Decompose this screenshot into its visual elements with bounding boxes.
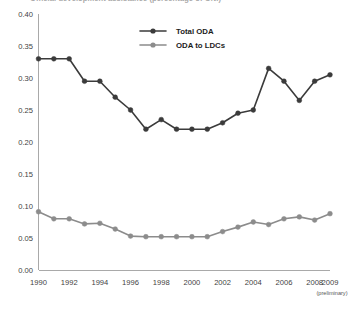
- x-axis-note-preliminary: (preliminary): [316, 290, 347, 296]
- series-data-point: [113, 95, 118, 100]
- legend-marker: [150, 28, 155, 33]
- series-data-point: [128, 108, 133, 113]
- series-data-point: [82, 79, 87, 84]
- series-data-point: [159, 117, 164, 122]
- x-axis-tick-label: 1994: [91, 278, 108, 287]
- legend-label: Total ODA: [176, 27, 214, 36]
- y-axis-tick-label: 0.20: [18, 138, 33, 147]
- y-axis-tick-label: 0.10: [18, 202, 33, 211]
- chart-container: Official development assistance (percent…: [0, 0, 349, 311]
- series-data-point: [312, 79, 317, 84]
- series-data-point: [297, 214, 302, 219]
- y-axis-tick-label: 0.25: [18, 106, 33, 115]
- y-axis-tick-label: 0.05: [18, 234, 33, 243]
- series-data-point: [174, 234, 179, 239]
- legend-marker: [150, 42, 155, 47]
- series-data-point: [205, 127, 210, 132]
- series-data-point: [82, 222, 87, 227]
- x-axis-tick-label: 2009: [322, 278, 339, 287]
- series-data-point: [128, 234, 133, 239]
- series-data-point: [97, 79, 102, 84]
- series-data-point: [236, 111, 241, 116]
- series-data-point: [282, 79, 287, 84]
- series-data-point: [328, 72, 333, 77]
- y-axis-tick-label: 0.15: [18, 170, 33, 179]
- series-data-point: [67, 56, 72, 61]
- series-data-point: [220, 120, 225, 125]
- series-data-point: [297, 98, 302, 103]
- x-axis-tick-label: 1992: [61, 278, 78, 287]
- data-series-layer: [36, 56, 332, 239]
- series-data-point: [97, 221, 102, 226]
- legend-label: ODA to LDCs: [176, 41, 226, 50]
- x-axis-tick-label: 1998: [153, 278, 170, 287]
- series-data-point: [328, 211, 333, 216]
- series-data-point: [266, 66, 271, 71]
- series-line: [39, 59, 331, 129]
- series-data-point: [266, 222, 271, 227]
- x-axis-tick-label: 1996: [122, 278, 139, 287]
- series-data-point: [312, 218, 317, 223]
- x-axis-tick-label: 2000: [183, 278, 200, 287]
- x-axis-tick-labels: 1990199219941996199820002002200420062008…: [30, 278, 348, 296]
- series-data-point: [190, 127, 195, 132]
- series-data-point: [282, 216, 287, 221]
- series-data-point: [251, 108, 256, 113]
- x-axis-tick-label: 2002: [214, 278, 231, 287]
- chart-legend: Total ODAODA to LDCs: [140, 27, 226, 50]
- series-data-point: [36, 56, 41, 61]
- series-data-point: [51, 216, 56, 221]
- series-data-point: [113, 227, 118, 232]
- y-axis-tick-label: 0.00: [18, 266, 33, 275]
- x-axis-tick-label: 2006: [276, 278, 293, 287]
- series-data-point: [36, 209, 41, 214]
- series-data-point: [143, 234, 148, 239]
- y-axis-tick-label: 0.30: [18, 74, 33, 83]
- series-data-point: [251, 220, 256, 225]
- line-chart-plot: 0.000.050.100.150.200.250.300.350.40 199…: [0, 0, 349, 311]
- series-data-point: [220, 229, 225, 234]
- y-axis-tick-label: 0.40: [18, 10, 33, 19]
- series-data-point: [236, 225, 241, 230]
- y-axis-tick-label: 0.35: [18, 42, 33, 51]
- series-data-point: [67, 216, 72, 221]
- series-data-point: [143, 127, 148, 132]
- x-axis-tick-label: 2004: [245, 278, 262, 287]
- series-data-point: [51, 56, 56, 61]
- series-data-point: [205, 234, 210, 239]
- x-axis-tick-label: 1990: [30, 278, 47, 287]
- series-data-point: [190, 234, 195, 239]
- series-data-point: [174, 127, 179, 132]
- series-data-point: [159, 234, 164, 239]
- y-axis-tick-labels: 0.000.050.100.150.200.250.300.350.40: [18, 10, 33, 275]
